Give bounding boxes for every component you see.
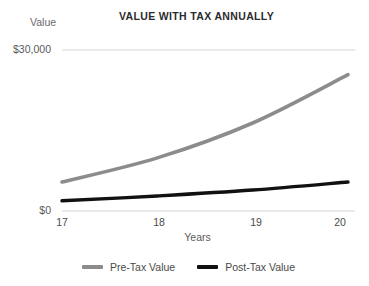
x-axis-tick-0: 17: [47, 216, 77, 228]
legend-item-post-tax[interactable]: Post-Tax Value: [197, 261, 295, 273]
chart-legend: Pre-Tax Value Post-Tax Value: [0, 261, 369, 273]
chart-container: VALUE WITH TAX ANNUALLY Value $30,000 $0…: [0, 0, 369, 286]
legend-label-post-tax: Post-Tax Value: [225, 261, 295, 273]
plot-area: [0, 0, 369, 286]
legend-item-pre-tax[interactable]: Pre-Tax Value: [82, 261, 175, 273]
line-series-pre-tax: [62, 75, 348, 182]
legend-swatch-post-tax: [197, 265, 218, 269]
x-axis-label: Years: [0, 231, 369, 243]
line-series-post-tax: [62, 182, 348, 201]
x-axis-tick-3: 20: [325, 216, 355, 228]
x-axis-tick-2: 19: [241, 216, 271, 228]
legend-label-pre-tax: Pre-Tax Value: [110, 261, 175, 273]
x-axis-tick-1: 18: [144, 216, 174, 228]
legend-swatch-pre-tax: [82, 265, 103, 269]
